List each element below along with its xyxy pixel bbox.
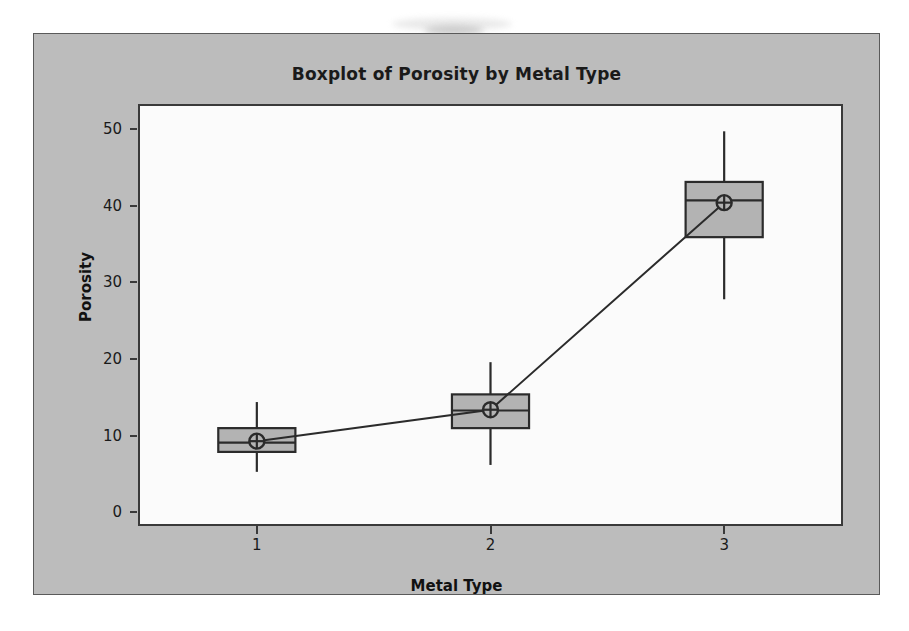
- scanned-page: Boxplot of Porosity by Metal Type Porosi…: [0, 0, 909, 631]
- y-axis-tick-mark: [130, 281, 137, 283]
- boxplot-box: [686, 131, 763, 299]
- plot-inner: [140, 106, 841, 524]
- x-axis-tick-label: 3: [704, 536, 744, 554]
- y-axis-tick-mark: [130, 435, 137, 437]
- chart-title: Boxplot of Porosity by Metal Type: [34, 64, 879, 84]
- y-axis-tick-mark: [130, 358, 137, 360]
- mean-symbol-icon: [249, 434, 264, 449]
- mean-symbol-icon: [483, 402, 498, 417]
- x-axis-title: Metal Type: [34, 577, 879, 595]
- x-axis-tick-mark: [256, 526, 258, 534]
- boxplot-svg: [140, 106, 841, 524]
- y-axis-tick-label: 20: [82, 350, 122, 368]
- y-axis-tick-mark: [130, 511, 137, 513]
- x-axis-tick-mark: [490, 526, 492, 534]
- y-axis-tick-label: 30: [82, 273, 122, 291]
- mean-symbol-icon: [717, 195, 732, 210]
- y-axis-tick-mark: [130, 128, 137, 130]
- plot-area: [138, 104, 843, 526]
- chart-figure: Boxplot of Porosity by Metal Type Porosi…: [33, 33, 880, 595]
- boxes-group: [218, 131, 762, 472]
- y-axis-tick-mark: [130, 205, 137, 207]
- y-axis-tick-label: 40: [82, 197, 122, 215]
- x-axis-tick-label: 2: [471, 536, 511, 554]
- y-axis-tick-label: 50: [82, 120, 122, 138]
- means-symbol-group: [249, 195, 731, 449]
- x-axis-tick-mark: [723, 526, 725, 534]
- y-axis-tick-label: 0: [82, 503, 122, 521]
- y-axis-tick-label: 10: [82, 427, 122, 445]
- x-axis-tick-label: 1: [237, 536, 277, 554]
